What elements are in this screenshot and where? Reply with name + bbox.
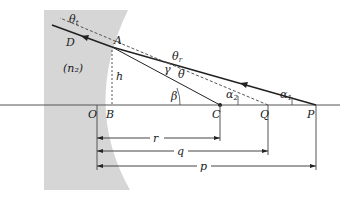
- arrow-icon: [240, 82, 248, 88]
- point-q: Q: [260, 108, 269, 121]
- length-p: p: [200, 160, 207, 173]
- point-p: P: [306, 108, 315, 121]
- angle-gamma: γ: [164, 63, 171, 76]
- length-q: q: [177, 145, 184, 158]
- point-c: C: [212, 108, 221, 121]
- angle-theta: θ: [178, 68, 185, 81]
- point-a: A: [113, 34, 122, 47]
- angle-theta-r: θr: [172, 50, 183, 64]
- point-o: O: [88, 108, 97, 121]
- normal-line: [112, 47, 220, 105]
- length-h: h: [116, 70, 123, 83]
- label-d: D: [65, 36, 75, 49]
- angle-beta: β: [170, 90, 177, 103]
- refraction-diagram: (n₂) A O B C Q P D θt θr θ γ β α2 α1 h r…: [0, 0, 349, 197]
- angle-alpha2: α2: [226, 88, 238, 102]
- point-b: B: [105, 108, 114, 121]
- angle-alpha1: α1: [280, 88, 292, 102]
- medium-label: (n₂): [63, 62, 83, 75]
- length-r: r: [153, 132, 159, 145]
